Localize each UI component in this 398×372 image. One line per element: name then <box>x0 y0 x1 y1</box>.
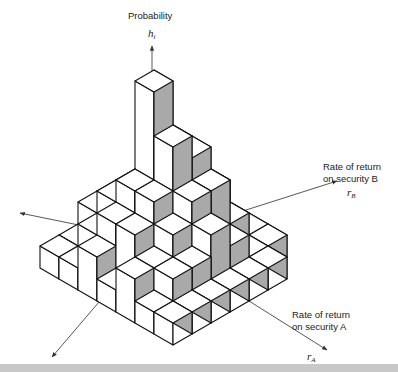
axis-b-symbol: rB <box>347 186 356 202</box>
h-subscript: i <box>154 33 156 41</box>
axis-b-label-line1: Rate of return <box>323 161 381 173</box>
vertical-axis-label: Probability <box>128 10 172 22</box>
axis-a-label-line1: Rate of return <box>292 309 350 321</box>
vertical-axis-symbol: hi <box>148 27 155 43</box>
page-footer-strip <box>0 364 398 372</box>
axis-b-label-line2: on security B <box>323 173 381 185</box>
axis-a-label-line2: on security A <box>292 321 350 333</box>
histogram-bars <box>40 70 287 345</box>
axis-b-label: Rate of return on security B <box>323 161 381 185</box>
axis-a-label: Rate of return on security A <box>292 309 350 333</box>
